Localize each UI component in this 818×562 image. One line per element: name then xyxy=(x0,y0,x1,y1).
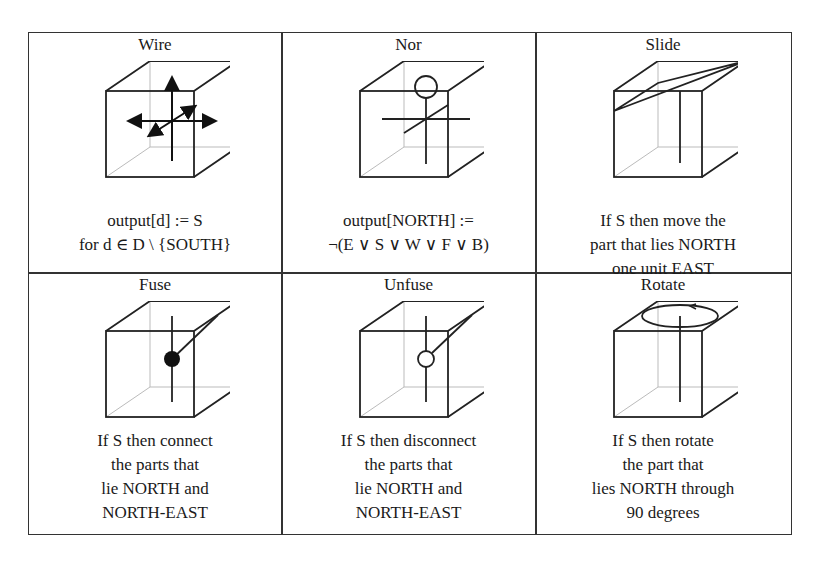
desc-line: NORTH-EAST xyxy=(29,501,281,525)
desc-line: the part that xyxy=(536,453,790,477)
desc-line: lie NORTH and xyxy=(29,477,281,501)
cell-description: If S then connect the parts that lie NOR… xyxy=(29,429,281,525)
cell-title: Unfuse xyxy=(282,275,535,295)
cell-unfuse: Unfuse If S then disconnect the parts th… xyxy=(282,273,535,535)
cube-with-arrows-icon xyxy=(29,61,281,216)
desc-line: lies NORTH through xyxy=(536,477,790,501)
cell-description: output[NORTH] := ¬(E ∨ S ∨ W ∨ F ∨ B) xyxy=(282,209,535,257)
desc-line: output[d] := S xyxy=(29,209,281,233)
cell-wire: Wire output[d] := S for d ∈ xyxy=(29,33,281,272)
cell-title: Fuse xyxy=(29,275,281,295)
desc-line: If S then disconnect xyxy=(282,429,535,453)
cell-description: If S then move the part that lies NORTH … xyxy=(536,209,790,281)
desc-line: the parts that xyxy=(29,453,281,477)
cell-fuse: Fuse If S then connect the parts that li… xyxy=(29,273,281,535)
desc-line: ¬(E ∨ S ∨ W ∨ F ∨ B) xyxy=(282,233,535,257)
cube-with-nor-cross-icon xyxy=(282,61,535,216)
desc-line: output[NORTH] := xyxy=(282,209,535,233)
desc-line: for d ∈ D \ {SOUTH} xyxy=(29,233,281,257)
cell-slide: Slide If S then move the part that lies … xyxy=(536,33,790,272)
cube-with-slide-plane-icon xyxy=(536,61,790,216)
cell-nor: Nor output[NORTH] := ¬(E ∨ S ∨ W ∨ F ∨ B… xyxy=(282,33,535,272)
cell-title: Slide xyxy=(536,35,790,55)
desc-line: lie NORTH and xyxy=(282,477,535,501)
desc-line: If S then connect xyxy=(29,429,281,453)
cell-rotate: Rotate If S then rotate the part that li… xyxy=(536,273,790,535)
cell-description: output[d] := S for d ∈ D \ {SOUTH} xyxy=(29,209,281,257)
operations-table: Wire output[d] := S for d ∈ xyxy=(28,32,792,535)
desc-line: If S then move the xyxy=(536,209,790,233)
cell-description: If S then disconnect the parts that lie … xyxy=(282,429,535,525)
cell-description: If S then rotate the part that lies NORT… xyxy=(536,429,790,525)
desc-line: If S then rotate xyxy=(536,429,790,453)
cell-title: Wire xyxy=(29,35,281,55)
desc-line: NORTH-EAST xyxy=(282,501,535,525)
cell-title: Rotate xyxy=(536,275,790,295)
cell-title: Nor xyxy=(282,35,535,55)
desc-line: the parts that xyxy=(282,453,535,477)
desc-line: part that lies NORTH xyxy=(536,233,790,257)
desc-line: 90 degrees xyxy=(536,501,790,525)
